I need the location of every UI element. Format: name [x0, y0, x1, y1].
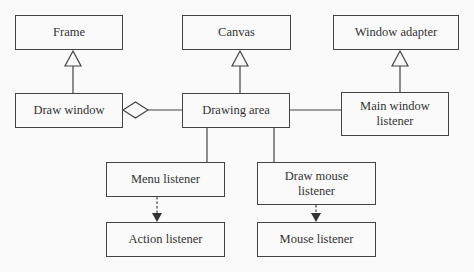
- generalization-arrow-icon: [392, 51, 408, 66]
- class-main-window-listener: Main window listener: [341, 92, 449, 136]
- class-canvas: Canvas: [182, 15, 291, 50]
- class-label: Draw window: [33, 103, 104, 118]
- dependency-arrowhead-icon: [152, 213, 162, 222]
- class-menu-listener: Menu listener: [106, 162, 225, 197]
- generalization-arrow-icon: [232, 51, 248, 66]
- class-label: Mouse listener: [280, 232, 354, 247]
- class-label: Canvas: [218, 25, 255, 40]
- class-label: Frame: [53, 25, 85, 40]
- class-action-listener: Action listener: [106, 222, 225, 257]
- class-label: Draw mouse listener: [284, 169, 349, 199]
- generalization-arrow-icon: [65, 51, 81, 66]
- class-window-adapter: Window adapter: [333, 15, 459, 50]
- class-label: Menu listener: [131, 172, 200, 187]
- class-label: Action listener: [129, 232, 203, 247]
- class-mouse-listener: Mouse listener: [257, 222, 376, 257]
- class-drawing-area: Drawing area: [182, 93, 290, 128]
- dependency-arrowhead-icon: [311, 213, 321, 222]
- class-label: Main window listener: [356, 99, 434, 129]
- aggregation-diamond-icon: [123, 102, 148, 118]
- class-label: Window adapter: [355, 25, 437, 40]
- class-frame: Frame: [15, 15, 123, 50]
- class-label: Drawing area: [202, 103, 270, 118]
- class-draw-mouse-listener: Draw mouse listener: [257, 162, 376, 205]
- class-draw-window: Draw window: [15, 93, 123, 128]
